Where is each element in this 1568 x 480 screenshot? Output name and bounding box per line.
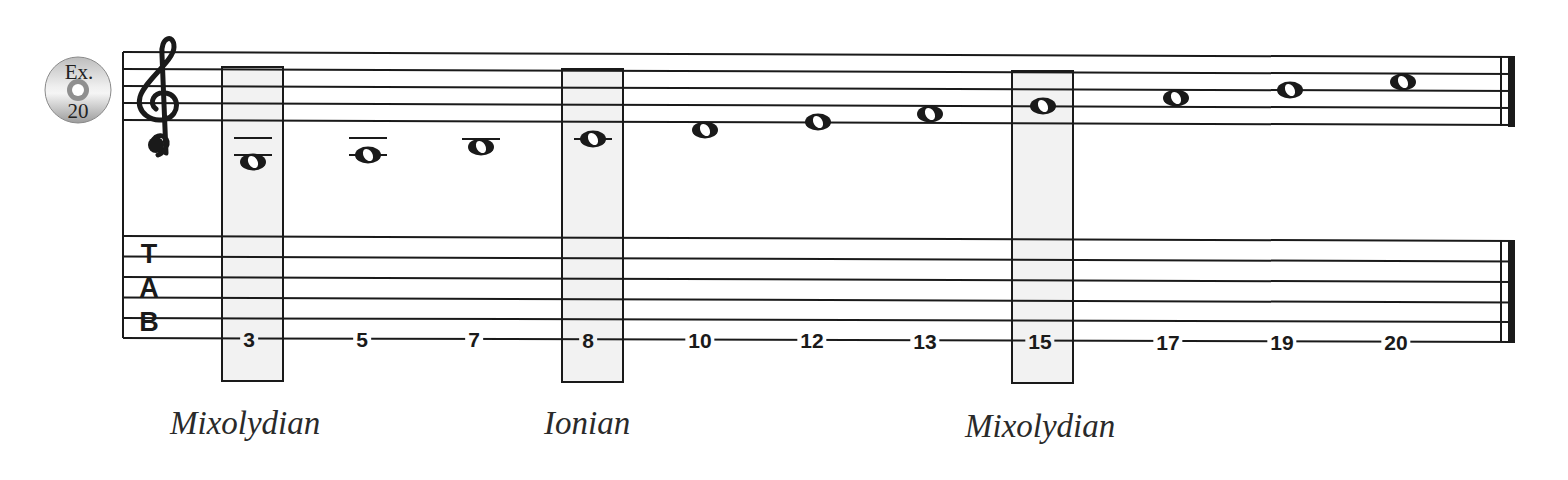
- whole-note-icon: [805, 114, 831, 131]
- fret-number: 19: [1267, 332, 1296, 353]
- mode-label-mixolydian-2: Mixolydian: [965, 408, 1115, 445]
- fret-number: 10: [685, 330, 714, 351]
- fret-number: 7: [465, 329, 483, 350]
- whole-note-icon: [1277, 82, 1303, 99]
- fret-number: 12: [797, 330, 826, 351]
- example-number: 20: [68, 101, 89, 122]
- whole-note-icon: [349, 138, 387, 164]
- fret-number: 17: [1153, 332, 1182, 353]
- whole-note-icon: [1030, 98, 1056, 115]
- fret-number: 20: [1381, 332, 1410, 353]
- whole-note-icon: [1163, 90, 1189, 107]
- fret-number: 13: [910, 331, 939, 352]
- tab-staff: [123, 236, 1515, 342]
- fret-number: 15: [1025, 331, 1054, 352]
- tab-letter-t: T: [141, 241, 158, 268]
- fret-number: 3: [240, 329, 258, 350]
- tab-letter-b: B: [139, 309, 159, 336]
- final-barline: [1501, 56, 1515, 343]
- tab-letter-a: A: [139, 275, 159, 302]
- whole-note-icon: [462, 139, 500, 156]
- treble-clef-icon: [139, 39, 176, 155]
- mode-label-ionian: Ionian: [544, 405, 630, 442]
- whole-note-icon: [1390, 74, 1416, 91]
- example-label-ex: Ex.: [65, 62, 94, 83]
- whole-note-icon: [917, 106, 943, 123]
- whole-note-icon: [692, 122, 718, 139]
- fret-number: 5: [353, 329, 371, 350]
- fret-number: 8: [579, 330, 597, 351]
- mode-label-mixolydian-1: Mixolydian: [170, 405, 320, 442]
- highlight-boxes: [222, 67, 1073, 383]
